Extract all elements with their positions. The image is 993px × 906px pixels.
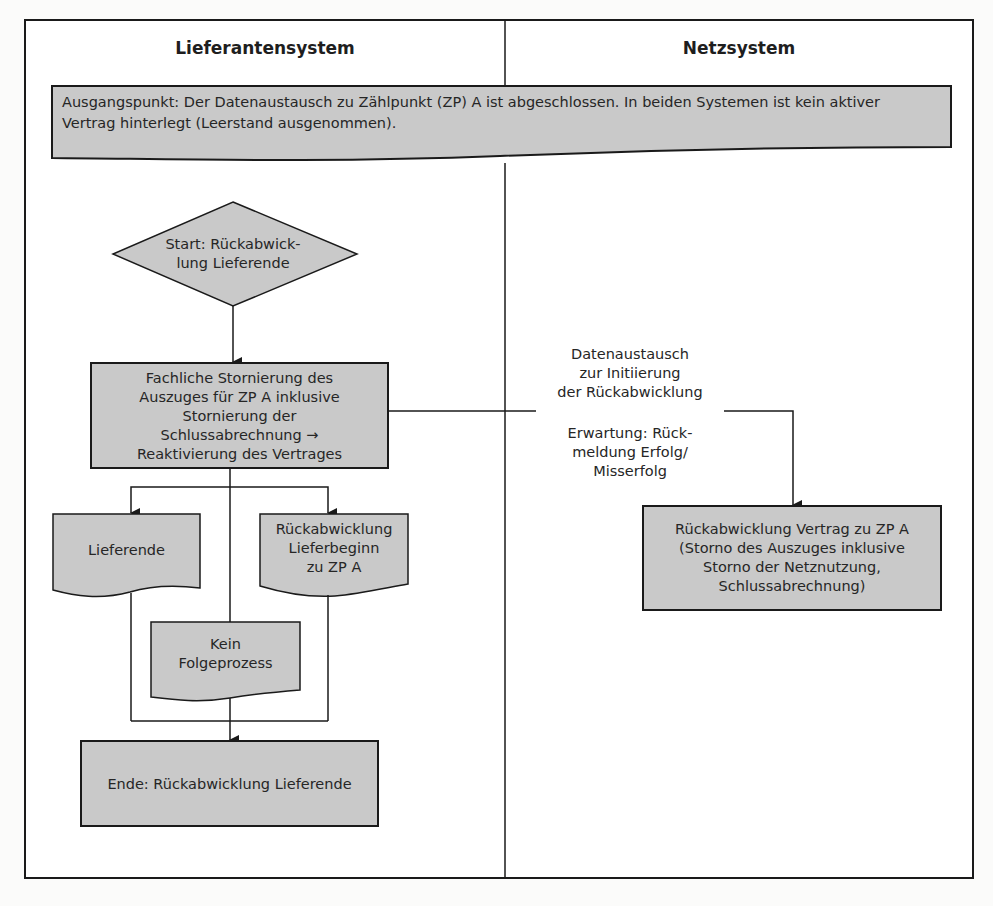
expectation-label: Erwartung: Rück- meldung Erfolg/ Misserf… bbox=[536, 422, 724, 482]
doc-lieferende-text: Lieferende bbox=[53, 530, 200, 570]
cancel-process-text: Fachliche Stornierung des Auszuges für Z… bbox=[91, 364, 388, 468]
start-decision-text: Start: Rückabwick- lung Lieferende bbox=[143, 234, 323, 274]
doc-rueckabwicklung-text: Rückabwicklung Lieferbeginn zu ZP A bbox=[260, 516, 408, 580]
net-reversal-text: Rückabwicklung Vertrag zu ZP A (Storno d… bbox=[643, 507, 941, 609]
end-event-text: Ende: Rückabwicklung Lieferende bbox=[81, 742, 378, 826]
start-condition-text: Ausgangspunkt: Der Datenaustausch zu Zäh… bbox=[62, 92, 942, 134]
exchange-label: Datenaustausch zur Initiierung der Rücka… bbox=[536, 343, 724, 403]
doc-kein-folgeprozess-text: Kein Folgeprozess bbox=[151, 632, 300, 676]
lane-title-lieferantensystem: Lieferantensystem bbox=[25, 38, 505, 58]
lane-title-netzsystem: Netzsystem bbox=[505, 38, 973, 58]
